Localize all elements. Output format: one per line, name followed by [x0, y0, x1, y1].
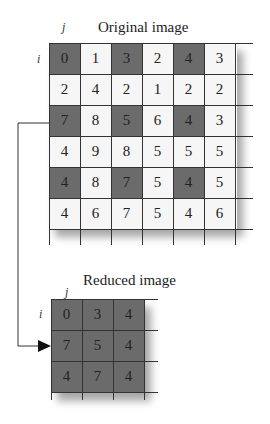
reduction-arrow-connector: [0, 0, 270, 424]
arrow-head-icon: [38, 340, 51, 352]
